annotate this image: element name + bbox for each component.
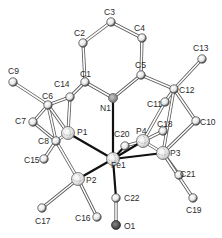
atom-n1 — [109, 94, 118, 103]
atom-c19 — [189, 194, 197, 202]
atom-p2 — [72, 173, 85, 186]
atom-label-c20: C20 — [114, 129, 130, 139]
atom-label-n1: N1 — [100, 103, 111, 113]
atom-c12 — [170, 85, 178, 93]
atom-label-p3: P3 — [170, 148, 181, 158]
atom-c11 — [161, 98, 169, 106]
atom-c5 — [137, 71, 145, 79]
molecular-structure-diagram: C1C2C3C4C5N1C6C7C8C9C10C11C12C13C14C15C1… — [0, 0, 222, 238]
atom-label-p4: P4 — [136, 126, 147, 136]
atom-label-c11: C11 — [147, 99, 162, 109]
atom-label-c13: C13 — [193, 43, 209, 53]
atom-c15 — [40, 155, 48, 163]
bond-P2-C17 — [42, 179, 78, 208]
atom-label-c4: C4 — [134, 23, 145, 33]
atom-label-c12: C12 — [179, 85, 195, 95]
atom-label-c2: C2 — [74, 28, 85, 38]
atom-c6 — [44, 101, 52, 109]
atom-label-c1: C1 — [80, 69, 91, 79]
atom-label-c18: C18 — [157, 119, 173, 129]
atom-c7 — [29, 118, 37, 126]
atom-label-c16: C16 — [75, 213, 91, 223]
atom-c8 — [52, 137, 60, 145]
atom-label-fe1: Fe1 — [111, 160, 126, 170]
atom-c3 — [107, 18, 115, 26]
atom-label-c10: C10 — [200, 117, 216, 127]
atom-p3 — [157, 147, 170, 160]
atom-label-c9: C9 — [8, 66, 19, 76]
atom-label-c17: C17 — [35, 216, 51, 226]
atom-label-c6: C6 — [42, 91, 53, 101]
bond-C5-N1 — [113, 75, 141, 98]
atom-label-c15: C15 — [24, 155, 40, 165]
atom-label-p2: P2 — [86, 175, 97, 185]
bonds-layer — [13, 22, 202, 225]
atom-c17 — [38, 204, 46, 212]
atom-label-c21: C21 — [180, 169, 196, 179]
atom-o1 — [112, 221, 121, 230]
atom-label-c22: C22 — [124, 193, 140, 203]
atom-c10 — [192, 117, 200, 125]
atom-p4 — [137, 135, 150, 148]
metal-bond-Fe1-P1 — [68, 133, 113, 159]
bond-C5-C12 — [141, 75, 174, 89]
bond-C2-C3 — [83, 22, 111, 43]
atom-c9 — [9, 78, 17, 86]
atom-p1 — [62, 127, 75, 140]
atom-label-c7: C7 — [15, 116, 26, 126]
atom-label-c8: C8 — [38, 136, 49, 146]
atom-label-c3: C3 — [104, 7, 115, 17]
atom-c13 — [198, 55, 206, 63]
atom-label-c5: C5 — [135, 60, 146, 70]
atom-c2 — [79, 39, 87, 47]
atom-c16 — [93, 213, 101, 221]
atoms-layer — [9, 18, 206, 230]
atom-c4 — [138, 34, 146, 42]
atom-label-c14: C14 — [54, 79, 70, 89]
atom-c14 — [66, 93, 74, 101]
atom-label-p1: P1 — [77, 127, 88, 137]
atom-label-o1: O1 — [124, 221, 136, 231]
atom-c1 — [81, 78, 89, 86]
atom-label-c19: C19 — [186, 205, 202, 215]
atom-c22 — [112, 194, 120, 202]
atom-c20 — [121, 142, 129, 150]
